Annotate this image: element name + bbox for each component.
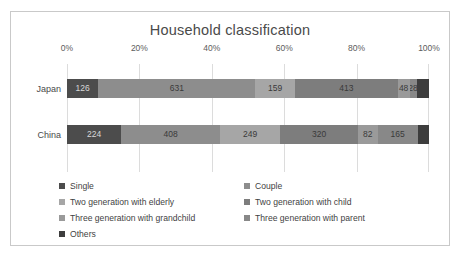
chart-title: Household classification (11, 22, 449, 38)
legend-item-5[interactable]: Three generation with parent (244, 214, 365, 223)
chart-frame: Household classification 0%20%40%60%80%1… (10, 11, 450, 246)
legend-label: Three generation with grandchild (70, 214, 195, 223)
chart-legend: SingleCoupleTwo generation with elderlyT… (59, 182, 429, 240)
x-axis-tick-1: 20% (131, 43, 148, 53)
legend-swatch-icon (59, 231, 65, 237)
bar-segment-japan-1[interactable]: 631 (98, 79, 255, 98)
x-axis-tick-2: 40% (203, 43, 220, 53)
bar-segment-japan-4[interactable]: 48 (398, 79, 410, 98)
legend-swatch-icon (244, 199, 250, 205)
legend-label: Others (70, 230, 96, 239)
x-axis-tick-3: 60% (276, 43, 293, 53)
bar-segment-value: 48 (399, 84, 408, 93)
bar-segment-value: 224 (87, 130, 101, 139)
bar-segment-china-1[interactable]: 408 (121, 125, 220, 144)
bar-segment-value: 631 (170, 84, 184, 93)
bar-segment-japan-5[interactable]: 28 (410, 79, 417, 98)
x-axis-tick-labels: 0%20%40%60%80%100% (67, 43, 429, 59)
bar-segment-japan-3[interactable]: 413 (295, 79, 398, 98)
legend-item-2[interactable]: Two generation with elderly (59, 198, 174, 207)
legend-item-4[interactable]: Three generation with grandchild (59, 214, 195, 223)
legend-swatch-icon (59, 199, 65, 205)
bar-segment-value: 320 (312, 130, 326, 139)
bar-segment-value: 408 (164, 130, 178, 139)
bar-segment-value: 126 (76, 84, 90, 93)
bar-segment-china-3[interactable]: 320 (280, 125, 357, 144)
x-axis-tick-0: 0% (61, 43, 73, 53)
legend-item-3[interactable]: Two generation with child (244, 198, 352, 207)
x-axis-tick-5: 100% (418, 43, 440, 53)
bar-segment-japan-6[interactable]: 50 (417, 79, 429, 98)
legend-swatch-icon (59, 215, 65, 221)
bar-segment-japan-2[interactable]: 159 (255, 79, 295, 98)
bar-row-china: 2244082493208216547 (67, 125, 429, 144)
legend-label: Two generation with elderly (70, 198, 174, 207)
legend-item-6[interactable]: Others (59, 230, 96, 239)
bar-segment-china-2[interactable]: 249 (220, 125, 280, 144)
bar-segment-china-6[interactable]: 47 (418, 125, 429, 144)
legend-swatch-icon (244, 215, 250, 221)
x-axis-tick-4: 80% (348, 43, 365, 53)
plot-area: JapanChina 12663115941348285022440824932… (67, 64, 429, 172)
legend-label: Couple (255, 182, 282, 191)
legend-label: Single (70, 182, 94, 191)
bar-row-japan: 126631159413482850 (67, 79, 429, 98)
legend-swatch-icon (244, 183, 250, 189)
category-label-japan: Japan (15, 84, 61, 94)
category-label-china: China (15, 130, 61, 140)
bar-segment-value: 249 (243, 130, 257, 139)
legend-label: Three generation with parent (255, 214, 365, 223)
legend-swatch-icon (59, 183, 65, 189)
bar-segment-japan-0[interactable]: 126 (67, 79, 98, 98)
bar-segment-value: 159 (268, 84, 282, 93)
bar-segment-china-5[interactable]: 165 (378, 125, 418, 144)
legend-label: Two generation with child (255, 198, 352, 207)
bar-segment-value: 82 (363, 130, 372, 139)
legend-item-1[interactable]: Couple (244, 182, 282, 191)
legend-item-0[interactable]: Single (59, 182, 94, 191)
bar-segment-value: 28 (410, 84, 417, 93)
bar-segment-value: 413 (339, 84, 353, 93)
bar-segment-china-4[interactable]: 82 (358, 125, 378, 144)
bar-segment-value: 165 (391, 130, 405, 139)
bar-segment-china-0[interactable]: 224 (67, 125, 121, 144)
